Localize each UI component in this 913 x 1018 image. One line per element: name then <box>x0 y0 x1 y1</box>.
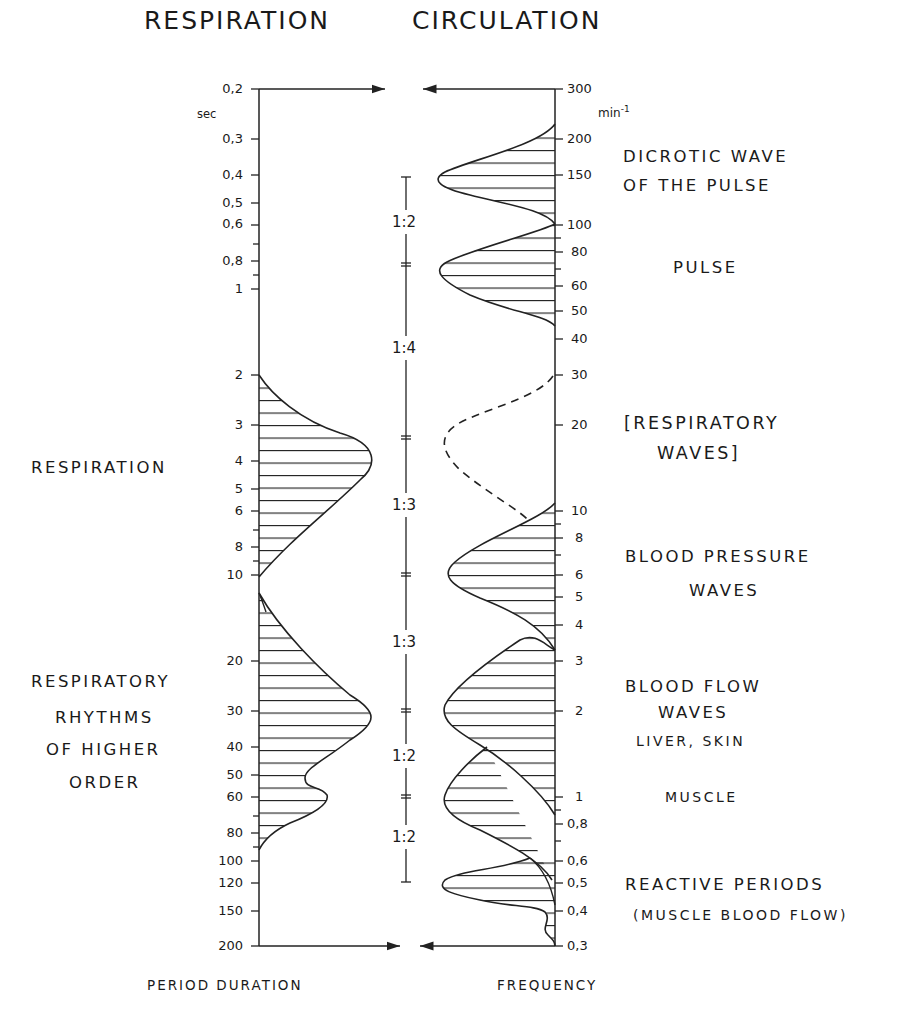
tick-label: 2 <box>235 367 243 382</box>
label-line: [RESPIRATORY <box>624 415 779 433</box>
title-respiration: RESPIRATION <box>144 6 330 35</box>
tick-label: 3 <box>575 653 583 668</box>
label-line: BLOOD PRESSURE <box>625 549 811 566</box>
ratio-label: 1:2 <box>392 744 416 768</box>
tick-label: 0,8 <box>567 816 588 831</box>
tick-label: 0,3 <box>567 938 588 953</box>
unit-exponent: -1 <box>621 104 630 114</box>
pulse-band <box>440 224 555 326</box>
left-unit-label: sec <box>197 107 216 121</box>
tick-label: 4 <box>235 453 243 468</box>
tick-label: 1 <box>235 281 243 296</box>
reactive-band <box>442 858 555 946</box>
tick-label: 0,5 <box>567 875 588 890</box>
bp-band <box>448 503 555 650</box>
label-line: RHYTHMS <box>55 710 154 727</box>
tick-label: 0,3 <box>222 131 243 146</box>
ratio-label: 1:3 <box>392 630 416 654</box>
label-line: DICROTIC WAVE <box>623 149 788 166</box>
tick-label: 3 <box>235 417 243 432</box>
respiration-band <box>259 375 372 577</box>
tick-label: 8 <box>235 539 243 554</box>
tick-label: 20 <box>571 417 588 432</box>
tick-label: 60 <box>226 789 243 804</box>
label-line: ORDER <box>69 775 141 792</box>
tick-label: 10 <box>571 503 588 518</box>
label-line: OF HIGHER <box>46 742 161 759</box>
tick-label: 0,4 <box>222 167 243 182</box>
label-line: REACTIVE PERIODS <box>625 877 824 894</box>
tick-label: 4 <box>575 617 583 632</box>
tick-label: 300 <box>567 81 592 96</box>
tick-label: 30 <box>571 367 588 382</box>
tick-label: 0,5 <box>222 195 243 210</box>
tick-label: 0,8 <box>222 253 243 268</box>
tick-label: 0,4 <box>567 903 588 918</box>
tick-label: 0,6 <box>222 216 243 231</box>
tick-label: 8 <box>575 530 583 545</box>
unit-text: min <box>598 106 621 120</box>
tick-label: 80 <box>226 825 243 840</box>
tick-label: 40 <box>226 739 243 754</box>
ratio-label: 1:4 <box>392 336 416 360</box>
label-muscle: MUSCLE <box>665 789 738 805</box>
ratio-label: 1:2 <box>392 210 416 234</box>
tick-label: 200 <box>218 938 243 953</box>
tick-label: 60 <box>571 278 588 293</box>
tick-label: 100 <box>218 853 243 868</box>
tick-label: 10 <box>226 567 243 582</box>
label-line: WAVES <box>658 705 728 722</box>
label-respiration: RESPIRATION <box>31 460 167 477</box>
ratio-label: 1:3 <box>392 493 416 517</box>
tick-label: 20 <box>226 653 243 668</box>
tick-label: 0,2 <box>222 81 243 96</box>
tick-label: 0,6 <box>567 853 588 868</box>
caption-frequency: FREQUENCY <box>497 977 597 993</box>
tick-label: 40 <box>571 331 588 346</box>
label-line: BLOOD FLOW <box>625 679 761 696</box>
dicrotic-band <box>438 124 555 224</box>
tick-label: 80 <box>571 244 588 259</box>
tick-label: 200 <box>567 131 592 146</box>
tick-label: 100 <box>567 217 592 232</box>
ratio-label: 1:2 <box>392 825 416 849</box>
tick-label: 50 <box>226 767 243 782</box>
right-unit-label: min-1 <box>598 104 630 120</box>
respiratory-waves-dashed <box>444 376 553 522</box>
label-line: OF THE PULSE <box>623 178 771 195</box>
tick-label: 5 <box>575 589 583 604</box>
label-line: WAVES] <box>657 445 740 463</box>
caption-period-duration: PERIOD DURATION <box>147 977 303 993</box>
tick-label: 120 <box>218 875 243 890</box>
tick-label: 6 <box>575 567 583 582</box>
label-line: WAVES <box>689 583 759 600</box>
label-pulse: PULSE <box>673 260 738 277</box>
tick-label: 150 <box>218 903 243 918</box>
tick-label: 6 <box>235 503 243 518</box>
tick-label: 2 <box>575 703 583 718</box>
tick-label: 5 <box>235 481 243 496</box>
tick-label: 30 <box>226 703 243 718</box>
tick-label: 150 <box>567 167 592 182</box>
label-line: RESPIRATORY <box>31 674 170 691</box>
label-liver-skin: LIVER, SKIN <box>636 733 745 749</box>
higher-order-band <box>259 593 371 850</box>
tick-label: 50 <box>571 303 588 318</box>
title-circulation: CIRCULATION <box>412 6 601 35</box>
label-line: (MUSCLE BLOOD FLOW) <box>633 907 848 923</box>
tick-label: 1 <box>575 789 583 804</box>
ratio-ladder <box>401 177 411 882</box>
